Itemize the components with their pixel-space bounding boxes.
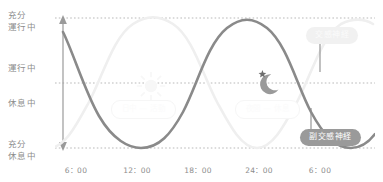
y-axis-label-top-line1: 充分: [8, 10, 27, 20]
y-axis-label-top: 充分 運行中: [8, 10, 36, 33]
x-tick-label: 6：00: [309, 164, 332, 175]
sun-icon: [136, 71, 166, 101]
y-axis-label-upper-middle: 運行中: [8, 63, 36, 75]
pill-daytime: 日中 — 活動: [111, 100, 176, 119]
badge-sympathetic-nerve: 交感神経: [306, 27, 358, 44]
pill-nighttime: 夜間 — 休息: [235, 100, 300, 119]
y-axis-label-bottom-line1: 充分: [8, 139, 27, 149]
circadian-rhythm-chart: 充分 運行中 運行中 休息中 充分 休息中: [0, 0, 383, 182]
y-axis-label-bottom: 充分 休息中: [8, 139, 36, 162]
y-axis-label-top-line2: 運行中: [8, 22, 36, 34]
x-tick-label: 18：00: [184, 164, 212, 175]
y-axis-label-lower-middle: 休息中: [8, 98, 36, 110]
x-tick-label: 12：00: [123, 164, 151, 175]
x-tick-label: 24：00: [245, 164, 273, 175]
badge-parasympathetic-nerve: 副交感神経: [300, 129, 361, 146]
y-axis-label-lower-middle-line1: 休息中: [8, 98, 36, 108]
y-axis-label-bottom-line2: 休息中: [8, 151, 36, 163]
moon-star-icon: [253, 66, 285, 98]
x-tick-label: 6：00: [65, 164, 88, 175]
y-axis-label-upper-middle-line1: 運行中: [8, 63, 36, 73]
